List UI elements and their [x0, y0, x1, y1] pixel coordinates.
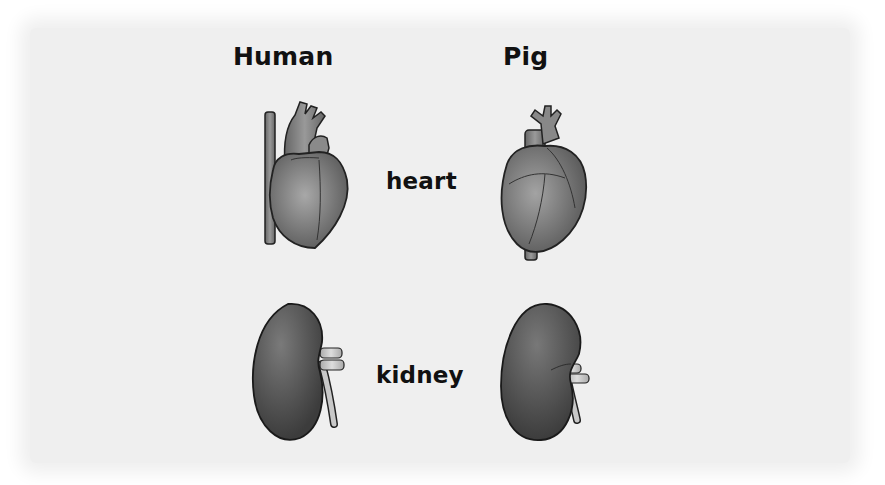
human-heart-illustration	[255, 100, 365, 250]
column-title-human: Human	[233, 42, 333, 71]
row-label-heart: heart	[386, 168, 457, 194]
column-title-pig: Pig	[503, 42, 548, 71]
human-kidney-illustration	[250, 300, 350, 445]
row-label-kidney: kidney	[376, 362, 464, 388]
pig-heart-illustration	[485, 104, 595, 264]
comparison-panel	[30, 28, 850, 463]
pig-kidney-illustration	[495, 300, 595, 445]
